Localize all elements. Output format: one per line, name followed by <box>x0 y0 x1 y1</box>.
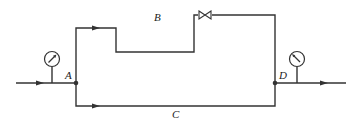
valve-icon <box>198 10 212 20</box>
branch-b-flow-arrow-icon <box>92 26 100 31</box>
junction-a-dot <box>74 81 79 86</box>
pipe-network-svg <box>0 0 354 123</box>
junction-d-dot <box>273 81 278 86</box>
branch-c-label: C <box>172 109 179 120</box>
pipe-network-diagram: A B C D <box>0 0 354 123</box>
node-a-label: A <box>65 70 72 81</box>
inlet-pressure-gauge-icon <box>45 52 60 67</box>
branch-b-label: B <box>154 12 161 23</box>
branch-b-pipe <box>76 15 275 83</box>
branch-c-flow-arrow-icon <box>92 104 100 109</box>
node-d-label: D <box>279 70 287 81</box>
inlet-flow-arrow-icon <box>36 81 44 86</box>
outlet-pressure-gauge-icon <box>290 52 305 67</box>
outlet-flow-arrow-icon <box>320 81 328 86</box>
branch-c-pipe <box>76 83 275 106</box>
